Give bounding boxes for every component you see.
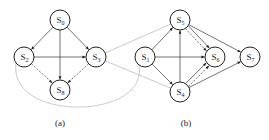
edge-S0-S3 <box>67 27 89 49</box>
node-s8: S8 <box>50 80 70 100</box>
edge-S3-S8-dashed <box>68 64 89 83</box>
cross-link-S3-S4 <box>105 61 170 88</box>
node-s1: S1 <box>135 47 155 67</box>
node-s6: S6 <box>205 47 225 67</box>
node-s4: S4 <box>170 82 190 102</box>
node-s7: S7 <box>240 47 260 67</box>
node-s0: S0 <box>50 10 70 30</box>
cross-link-S3-S5 <box>105 24 170 53</box>
caption-b: (b) <box>181 118 192 128</box>
node-s2: S2 <box>14 47 34 67</box>
edge-S5-S6 <box>188 26 209 48</box>
nodes: S0S2S3S8S5S1S6S7S4 <box>14 10 260 102</box>
edge-S2-S8-dashed <box>31 64 52 83</box>
diagram-canvas: S0S2S3S8S5S1S6S7S4 (a) (b) <box>0 0 269 140</box>
cross-link-S2-S1 <box>16 63 140 107</box>
caption-a: (a) <box>55 118 65 128</box>
node-s3: S3 <box>86 47 106 67</box>
captions: (a) (b) <box>55 118 191 128</box>
node-s5: S5 <box>170 10 190 30</box>
edge-S0-S2 <box>31 27 53 49</box>
edge-S4-S6-dashed <box>188 66 209 87</box>
